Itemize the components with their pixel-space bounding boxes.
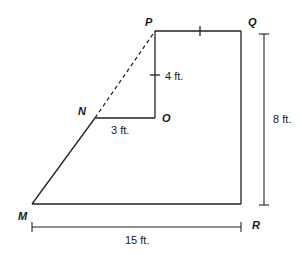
edge-mn <box>32 118 95 204</box>
vertex-label-n: N <box>78 105 87 117</box>
edge-np-dashed <box>95 31 155 118</box>
measure-label-no: 3 ft. <box>111 124 129 136</box>
measure-label-height: 8 ft. <box>273 113 291 125</box>
vertex-label-r: R <box>252 219 260 231</box>
vertex-label-m: M <box>18 210 28 222</box>
vertex-label-p: P <box>145 16 153 28</box>
composite-figure-diagram: P Q N O M R 4 ft. 3 ft. 8 ft. 15 ft. <box>0 0 301 255</box>
vertex-label-q: Q <box>248 16 257 28</box>
measure-label-po: 4 ft. <box>165 70 183 82</box>
measure-label-base: 15 ft. <box>125 234 149 246</box>
vertex-label-o: O <box>162 112 171 124</box>
